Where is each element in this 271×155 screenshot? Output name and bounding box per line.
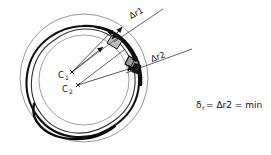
equation-block: δ r = Δr2 = min xyxy=(196,100,262,111)
center-1-sublabel: 1 xyxy=(65,74,69,81)
delta-r1-label: Δr1 xyxy=(127,5,145,21)
diagram-canvas: C 1 C 2 Δr1 Δr2 δ r = Δr2 = min xyxy=(0,0,271,155)
delta-r2-label: Δr2 xyxy=(149,49,166,63)
equation-rest: = Δr2 = min xyxy=(206,100,262,110)
center-2-sublabel: 2 xyxy=(69,88,73,95)
center-1-label: C xyxy=(58,70,64,80)
equation-delta-sub: r xyxy=(202,104,205,111)
center-2-label: C xyxy=(62,84,68,94)
roundness-diagram: C 1 C 2 Δr1 Δr2 δ r = Δr2 = min xyxy=(0,0,271,155)
